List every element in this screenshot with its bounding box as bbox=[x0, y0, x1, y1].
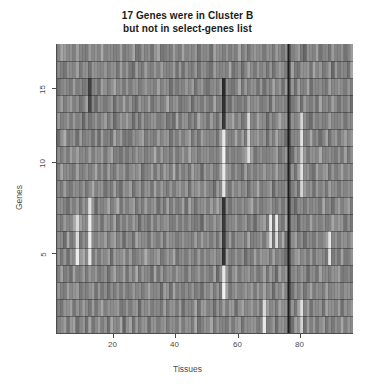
x-tick-80 bbox=[300, 334, 301, 338]
x-ticklabel-40: 40 bbox=[170, 340, 179, 349]
heatmap-figure: 17 Genes were in Cluster B but not in se… bbox=[0, 0, 375, 386]
chart-title-line1: 17 Genes were in Cluster B bbox=[0, 9, 375, 22]
y-tick-10 bbox=[52, 162, 56, 163]
x-tick-40 bbox=[175, 334, 176, 338]
x-axis-label: Tissues bbox=[0, 364, 375, 374]
y-tick-5 bbox=[52, 253, 56, 254]
y-axis-label: Genes bbox=[14, 185, 24, 210]
heatmap-canvas bbox=[57, 44, 353, 333]
chart-title-line2: but not in select-genes list bbox=[0, 22, 375, 35]
x-axis-line bbox=[57, 333, 353, 334]
x-tick-60 bbox=[238, 334, 239, 338]
x-ticklabel-80: 80 bbox=[295, 340, 304, 349]
y-tick-15 bbox=[52, 88, 56, 89]
x-ticklabel-60: 60 bbox=[233, 340, 242, 349]
x-tick-20 bbox=[113, 334, 114, 338]
chart-title: 17 Genes were in Cluster B but not in se… bbox=[0, 9, 375, 35]
y-ticklabel-10: 10 bbox=[38, 159, 47, 168]
y-axis-line bbox=[56, 44, 57, 334]
heatmap-panel bbox=[57, 44, 353, 333]
y-ticklabel-5: 5 bbox=[39, 252, 48, 256]
y-ticklabel-15: 15 bbox=[38, 85, 47, 94]
x-ticklabel-20: 20 bbox=[108, 340, 117, 349]
